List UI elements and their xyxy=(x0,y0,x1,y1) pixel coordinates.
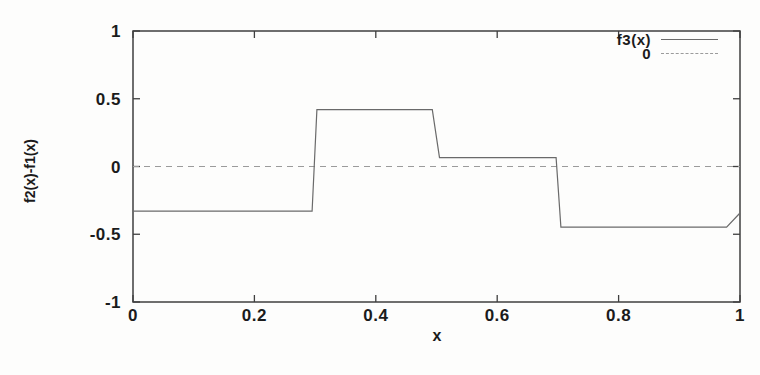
y-tick-label: 1 xyxy=(111,22,121,41)
y-tick-label: 0.5 xyxy=(96,90,121,109)
x-tick-label: 0.2 xyxy=(242,306,267,325)
y-tick-label: 0 xyxy=(111,158,121,177)
legend-entry-zero: 0 xyxy=(617,46,718,60)
dashed-line-sample-icon xyxy=(661,53,718,54)
x-tick-label: 0.6 xyxy=(485,306,510,325)
solid-line-sample-icon xyxy=(661,39,718,40)
legend: f3(x) 0 xyxy=(617,32,718,60)
x-tick-label: 0.4 xyxy=(363,306,388,325)
x-tick-label: 1 xyxy=(735,306,745,325)
x-tick-label: 0 xyxy=(128,306,138,325)
y-tick-label: -1 xyxy=(105,293,121,312)
difference-plot-figure: 00.20.40.60.81-1-0.500.51 f2(x)-f1(x) x … xyxy=(0,0,760,375)
x-tick-label: 0.8 xyxy=(606,306,631,325)
legend-label-zero: 0 xyxy=(642,45,651,62)
y-axis-label: f2(x)-f1(x) xyxy=(22,139,38,203)
legend-entry-f3: f3(x) xyxy=(617,32,718,46)
series-line-f3 xyxy=(133,110,740,228)
x-axis-label: x xyxy=(433,327,442,345)
y-tick-label: -0.5 xyxy=(90,225,121,244)
